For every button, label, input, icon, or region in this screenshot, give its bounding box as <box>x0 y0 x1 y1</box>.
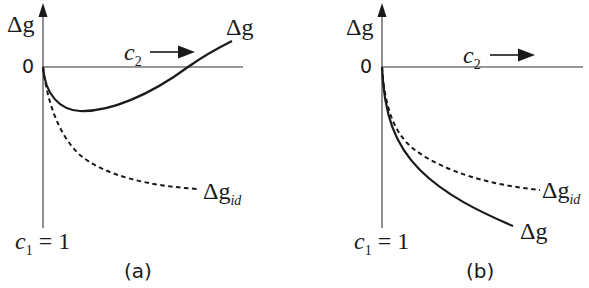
panel-b-x-axis-label: c2 <box>463 43 481 72</box>
panel-a-c1-label: c1 = 1 <box>15 229 70 258</box>
panel-a-curve-dg-id <box>43 67 198 189</box>
panel-a-caption: (a) <box>124 261 152 281</box>
panel-b-y-axis-arrow-icon <box>378 3 387 17</box>
panel-b-origin-label-text: 0 <box>360 55 372 77</box>
panel-b-caption: (b) <box>466 261 494 281</box>
panel-a-y-axis-arrow-icon <box>39 3 48 17</box>
plot-canvas <box>0 0 589 288</box>
panel-b-dg-id-curve-label: Δgid <box>542 178 580 207</box>
panel-a-dg-label-text: Δg <box>226 14 253 40</box>
panel-a-c1-rest: = 1 <box>33 228 71 254</box>
panel-b-curve-dg-id <box>382 67 540 190</box>
panel-b-c2-arrow-icon <box>518 49 535 62</box>
panel-b-y-axis-label: Δg <box>346 15 373 39</box>
panel-b-c1-sub: 1 <box>365 243 372 258</box>
panel-b-dg-id-label-text: Δg <box>542 177 569 203</box>
panel-b-y-axis-label-text: Δg <box>346 14 373 40</box>
panel-a-dg-id-sub: id <box>230 193 241 208</box>
panel-a-y-axis-label-text: Δg <box>7 11 34 37</box>
panel-a-x-var: c <box>124 39 135 65</box>
panel-b-c1-rest: = 1 <box>372 228 410 254</box>
panel-a-y-axis-label: Δg <box>7 12 34 36</box>
panel-a-x-sub: 2 <box>135 54 142 69</box>
panel-a-c2-arrow-icon <box>178 46 195 59</box>
panel-b-x-var: c <box>463 42 474 68</box>
panel-a-x-axis-label: c2 <box>124 40 142 69</box>
panel-b-x-sub: 2 <box>474 57 481 72</box>
panel-a-dg-id-curve-label: Δgid <box>203 179 241 208</box>
panel-b-curve-dg <box>382 67 513 226</box>
panel-b-c1-var: c <box>354 228 365 254</box>
panel-b-origin-label: 0 <box>360 57 372 76</box>
panel-b-caption-text: (b) <box>466 259 494 283</box>
free-energy-of-mixing-figure: Δg 0 c2 Δg Δgid c1 = 1 (a) Δg 0 c2 Δgid … <box>0 0 589 288</box>
panel-a-caption-text: (a) <box>124 259 152 283</box>
panel-b-dg-curve-label: Δg <box>520 219 547 243</box>
panel-b-dg-label-text: Δg <box>520 218 547 244</box>
panel-a-origin-label: 0 <box>22 57 34 76</box>
panel-a-c1-var: c <box>15 228 26 254</box>
panel-a-dg-curve-label: Δg <box>226 15 253 39</box>
panel-a-origin-label-text: 0 <box>22 55 34 77</box>
panel-a-dg-id-label-text: Δg <box>203 178 230 204</box>
panel-b-c1-label: c1 = 1 <box>354 229 409 258</box>
panel-a-c1-sub: 1 <box>26 243 33 258</box>
panel-b-dg-id-sub: id <box>569 192 580 207</box>
